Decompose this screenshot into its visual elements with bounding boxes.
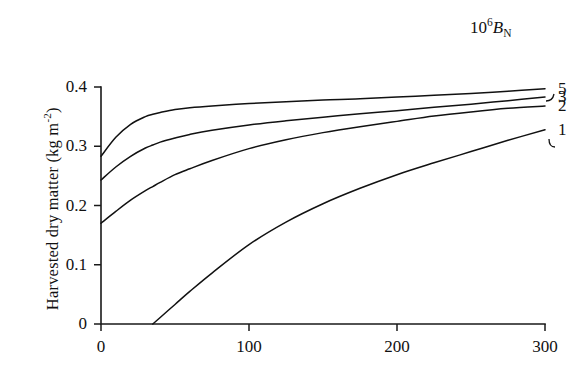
curve-1	[153, 130, 545, 324]
x-tick-label: 300	[505, 338, 585, 355]
label-hooks	[546, 94, 555, 147]
hook-top-icon	[546, 94, 554, 101]
curve-3	[101, 97, 545, 180]
legend-title-symbol: B	[493, 18, 503, 37]
x-tick-label: 200	[357, 338, 437, 355]
curve-2	[101, 106, 545, 223]
legend-title: 106BN	[470, 16, 511, 39]
y-tick-label: 0.4	[7, 78, 87, 95]
y-axis-ticks	[94, 87, 101, 324]
curve-5	[101, 89, 545, 157]
x-tick-label: 0	[61, 338, 141, 355]
y-axis-title-exponent: -2	[41, 113, 53, 123]
y-tick-label: 0	[7, 315, 87, 332]
y-axis-title-close: )	[43, 107, 62, 113]
legend-title-subscript: N	[503, 27, 511, 39]
x-axis-ticks	[101, 324, 545, 331]
x-tick-label: 100	[209, 338, 289, 355]
legend-title-base: 10	[470, 18, 487, 37]
curve-label-1: 1	[558, 121, 567, 138]
y-tick-label: 0.3	[7, 137, 87, 154]
axes-group	[94, 87, 545, 331]
axis-lines	[101, 87, 545, 324]
plot-area	[0, 0, 586, 389]
y-tick-label: 0.2	[7, 197, 87, 214]
data-curves	[101, 89, 545, 324]
chart-figure: Harvested dry matter (kg m-2) 106BN 00.1…	[0, 0, 586, 389]
hook-bottom-icon	[549, 139, 555, 147]
y-tick-label: 0.1	[7, 256, 87, 273]
curve-label-2: 2	[558, 97, 567, 114]
